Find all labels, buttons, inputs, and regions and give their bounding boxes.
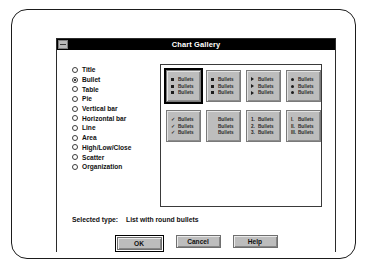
window-title: Chart Gallery (172, 39, 220, 50)
thumbnail-line: Bullets (171, 76, 194, 82)
radio-organization[interactable]: Organization (72, 162, 156, 172)
thumbnail-line: Bullets (211, 130, 234, 136)
ok-button[interactable]: OK (117, 237, 162, 250)
thumbnail-line-text: Bullets (178, 84, 194, 89)
thumbnail-no-bullets[interactable]: BulletsBulletsBullets (206, 110, 241, 142)
thumbnail-line: Bullets (211, 90, 234, 96)
thumbnail-check-bullets[interactable]: ✓Bullets✓Bullets✓Bullets (166, 110, 201, 142)
control-menu-dash (60, 44, 66, 46)
radio-table[interactable]: Table (72, 84, 156, 94)
chart-type-radio-group[interactable]: TitleBulletTablePieVertical barHorizonta… (72, 65, 156, 172)
chart-gallery-dialog: Chart Gallery TitleBulletTablePieVertica… (56, 38, 336, 252)
text-bullet-marker: 3. (251, 130, 258, 135)
thumbnail-line-text: Bullets (258, 77, 274, 82)
thumbnail-line: Bullets (211, 123, 234, 129)
radio-high-low-close[interactable]: High/Low/Close (72, 143, 156, 153)
thumbnail-line: Bullets (211, 76, 234, 82)
radio-label: High/Low/Close (82, 143, 131, 152)
control-menu-box-icon[interactable] (58, 40, 68, 49)
radio-line[interactable]: Line (72, 123, 156, 133)
text-bullet-marker: ✓ (171, 124, 178, 129)
square-bullet-icon (171, 78, 178, 81)
thumbnail-line: ✓Bullets (171, 116, 194, 122)
square-bullet-icon (171, 85, 178, 88)
thumbnail-line: Bullets (171, 83, 194, 89)
square-bullet-icon (171, 91, 178, 94)
thumbnail-line-text: Bullets (258, 117, 274, 122)
radio-label: Vertical bar (82, 104, 118, 113)
square-bullet-icon (211, 78, 218, 81)
radio-vertical-bar[interactable]: Vertical bar (72, 104, 156, 114)
radio-button-icon (72, 125, 78, 131)
thumbnail-line: ✓Bullets (171, 130, 194, 136)
thumbnail-line-text: Bullets (258, 90, 274, 95)
selected-type-status: Selected type: List with round bullets (72, 216, 198, 223)
radio-label: Table (82, 85, 99, 94)
text-bullet-marker: ✓ (171, 117, 178, 122)
cancel-button[interactable]: Cancel (176, 235, 221, 248)
help-button-frame: Help (233, 235, 278, 252)
thumbnail-line-text: Bullets (218, 90, 234, 95)
triangle-bullet-icon (251, 84, 258, 88)
radio-label: Bullet (82, 75, 100, 84)
radio-scatter[interactable]: Scatter (72, 152, 156, 162)
screen-bezel: Chart Gallery TitleBulletTablePieVertica… (11, 9, 356, 259)
thumbnail-line: I.Bullets (291, 116, 314, 122)
thumbnail-line-text: Bullets (178, 90, 194, 95)
thumbnail-line: II.Bullets (291, 123, 314, 129)
triangle-bullet-icon (251, 91, 258, 95)
radio-label: Title (82, 65, 95, 74)
radio-title[interactable]: Title (72, 65, 156, 75)
text-bullet-marker: II. (291, 124, 298, 129)
thumbnail-square-bullets[interactable]: BulletsBulletsBullets (166, 70, 201, 102)
square-bullet-icon (211, 85, 218, 88)
radio-button-icon (72, 144, 78, 150)
thumbnail-line-text: Bullets (218, 117, 234, 122)
title-bar[interactable]: Chart Gallery (57, 39, 335, 50)
radio-button-icon (72, 77, 78, 83)
radio-label: Scatter (82, 153, 104, 162)
thumbnail-line: 3.Bullets (251, 130, 274, 136)
radio-label: Area (82, 133, 97, 142)
help-button[interactable]: Help (233, 235, 278, 248)
thumbnail-line-text: Bullets (218, 124, 234, 129)
thumbnail-line: Bullets (291, 83, 314, 89)
text-bullet-marker: ✓ (171, 130, 178, 135)
cancel-button-frame: Cancel (176, 235, 221, 252)
thumbnail-line: III.Bullets (291, 130, 314, 136)
thumbnail-line: Bullets (171, 90, 194, 96)
thumbnail-triangle-bullets[interactable]: BulletsBulletsBullets (246, 70, 281, 102)
thumbnail-round-bullets[interactable]: BulletsBulletsBullets (286, 70, 321, 102)
radio-horizontal-bar[interactable]: Horizontal bar (72, 113, 156, 123)
radio-bullet[interactable]: Bullet (72, 75, 156, 85)
thumbnail-line: Bullets (211, 116, 234, 122)
radio-button-icon (72, 67, 78, 73)
thumbnail-roman-numbered-bullets[interactable]: I.BulletsII.BulletsIII.Bullets (286, 110, 321, 142)
thumbnail-line: Bullets (251, 90, 274, 96)
selected-type-value: List with round bullets (126, 216, 199, 223)
thumbnail-line-text: Bullets (178, 117, 194, 122)
radio-button-icon (72, 164, 78, 170)
dialog-button-row: OK Cancel Help (57, 235, 335, 252)
radio-pie[interactable]: Pie (72, 94, 156, 104)
thumbnail-line: Bullets (251, 83, 274, 89)
round-bullet-icon (291, 78, 298, 81)
thumbnail-line: ✓Bullets (171, 123, 194, 129)
text-bullet-marker: 1. (251, 117, 258, 122)
thumbnail-line-text: Bullets (218, 84, 234, 89)
radio-button-icon (72, 86, 78, 92)
thumbnail-line-text: Bullets (258, 84, 274, 89)
text-bullet-marker: 2. (251, 124, 258, 129)
thumbnail-line-text: Bullets (258, 124, 274, 129)
radio-button-icon (72, 135, 78, 141)
thumbnail-grid[interactable]: BulletsBulletsBulletsBulletsBulletsBulle… (166, 70, 321, 142)
triangle-bullet-icon (251, 77, 258, 81)
thumbnail-line: Bullets (291, 90, 314, 96)
radio-label: Line (82, 123, 96, 132)
radio-button-icon (72, 154, 78, 160)
thumbnail-line-text: Bullets (298, 84, 314, 89)
thumbnail-line-text: Bullets (178, 124, 194, 129)
radio-area[interactable]: Area (72, 133, 156, 143)
thumbnail-numbered-bullets[interactable]: 1.Bullets2.Bullets3.Bullets (246, 110, 281, 142)
thumbnail-small-square-bullets[interactable]: BulletsBulletsBullets (206, 70, 241, 102)
